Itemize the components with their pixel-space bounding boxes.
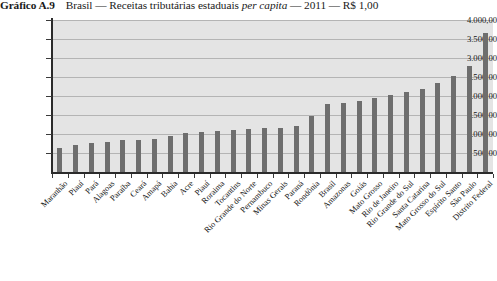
- bar: [262, 128, 267, 172]
- x-axis-tick-mark: [383, 174, 384, 178]
- bar: [215, 131, 220, 172]
- bar: [278, 128, 283, 172]
- bar: [231, 130, 236, 172]
- x-axis-tick-mark: [430, 174, 431, 178]
- bar: [89, 143, 94, 172]
- x-axis-label-wrapper: Maranhão: [39, 179, 69, 209]
- bar: [404, 92, 409, 172]
- bar: [341, 103, 346, 172]
- x-axis-tick-mark: [162, 174, 163, 178]
- x-axis-tick-mark: [194, 174, 195, 178]
- bar: [136, 140, 141, 172]
- x-axis-tick-mark: [210, 174, 211, 178]
- bar: [467, 66, 472, 172]
- bar: [435, 83, 440, 172]
- x-axis-tick-mark: [399, 174, 400, 178]
- x-axis-tick-mark: [178, 174, 179, 178]
- x-axis-label-wrapper: Acre: [177, 179, 195, 197]
- x-axis-tick-mark: [99, 174, 100, 178]
- figure-title-italic: per capita: [242, 0, 288, 11]
- x-axis-tick-mark: [147, 174, 148, 178]
- bar: [294, 126, 299, 172]
- x-axis-label-wrapper: Piauí: [67, 179, 85, 197]
- x-axis-tick-mark: [115, 174, 116, 178]
- x-axis-tick-mark: [225, 174, 226, 178]
- bar: [325, 104, 330, 172]
- bar: [451, 76, 456, 172]
- bar: [105, 142, 110, 172]
- bar: [199, 132, 204, 172]
- x-axis-tick-mark: [320, 174, 321, 178]
- bar: [483, 33, 488, 172]
- x-axis-tick-mark: [477, 174, 478, 178]
- x-axis-tick-mark: [131, 174, 132, 178]
- x-axis-tick-mark: [288, 174, 289, 178]
- x-axis-tick-mark: [462, 174, 463, 178]
- bar-series: [52, 20, 493, 172]
- x-axis-tick-mark: [367, 174, 368, 178]
- figure-title-text: Brasil — Receitas tributárias estaduais …: [55, 0, 379, 11]
- x-axis-tick-label: Acre: [177, 179, 195, 197]
- bar: [168, 136, 173, 172]
- x-axis-tick-mark: [84, 174, 85, 178]
- x-axis-labels: MaranhãoPiauíParáAlagoasParaíbaCearáAmap…: [52, 179, 493, 279]
- bar: [357, 101, 362, 172]
- x-axis-tick-mark: [257, 174, 258, 178]
- figure-number-label: Gráfico A.9: [0, 0, 55, 11]
- figure-title-part-2: — 2011 — R$ 1,00: [287, 0, 378, 11]
- bar: [420, 89, 425, 172]
- x-axis-tick-mark: [68, 174, 69, 178]
- x-axis-tick-label: Maranhão: [39, 179, 69, 209]
- figure-title: Gráfico A.9Brasil — Receitas tributárias…: [0, 0, 497, 13]
- bar: [309, 116, 314, 172]
- x-axis-tick-mark: [493, 174, 494, 178]
- x-axis-tick-mark: [273, 174, 274, 178]
- x-axis-tick-mark: [336, 174, 337, 178]
- figure-container: Gráfico A.9Brasil — Receitas tributárias…: [0, 0, 497, 281]
- bar: [152, 139, 157, 172]
- bar: [57, 148, 62, 172]
- figure-title-part-1: Brasil — Receitas tributárias estaduais: [66, 0, 242, 11]
- bar: [246, 129, 251, 172]
- bar: [73, 145, 78, 172]
- x-axis-tick-mark: [52, 174, 53, 178]
- x-axis-tick-mark: [414, 174, 415, 178]
- x-axis-tick-mark: [241, 174, 242, 178]
- bar: [183, 133, 188, 172]
- x-axis-tick-label: Piauí: [67, 179, 85, 197]
- x-axis-tick-mark: [304, 174, 305, 178]
- bar: [372, 98, 377, 172]
- x-axis-tick-mark: [351, 174, 352, 178]
- x-axis-tick-mark: [446, 174, 447, 178]
- x-axis-label-wrapper: Bahia: [159, 179, 179, 199]
- x-axis-tick-label: Bahia: [159, 179, 179, 199]
- bar: [388, 95, 393, 172]
- bar: [120, 140, 125, 172]
